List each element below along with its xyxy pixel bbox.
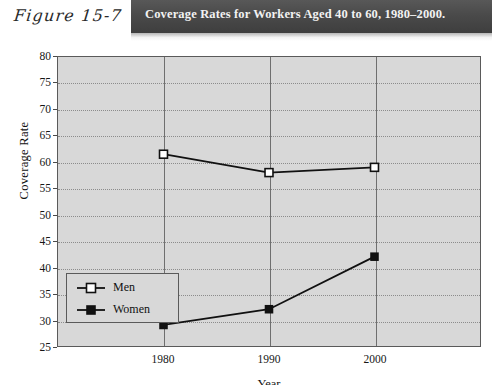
y-tick-label: 30	[5, 315, 51, 327]
y-tick-label: 50	[5, 209, 51, 221]
y-tick-label: 55	[5, 182, 51, 194]
legend-marker-women-icon	[75, 299, 107, 321]
y-tick-label: 40	[5, 262, 51, 274]
y-tick-label: 65	[5, 129, 51, 141]
chart-area: Coverage Rate 253035404550556065707580 1…	[0, 41, 492, 385]
chart-title: Coverage Rates for Workers Aged 40 to 60…	[145, 7, 445, 22]
figure-header: Figure 15-7 Coverage Rates for Workers A…	[0, 0, 492, 40]
y-tick-label: 25	[5, 341, 51, 353]
y-tick-label: 35	[5, 288, 51, 300]
y-tick-label: 45	[5, 235, 51, 247]
plot-frame: MenWomen	[57, 56, 481, 347]
header-shadow	[131, 33, 492, 41]
legend-label: Men	[113, 280, 135, 295]
chart-legend: MenWomen	[66, 273, 179, 323]
legend-marker-men-icon	[75, 277, 107, 299]
y-tick-label: 60	[5, 156, 51, 168]
legend-item-women: Women	[67, 299, 178, 321]
legend-item-men: Men	[67, 277, 178, 299]
y-tick-label: 70	[5, 103, 51, 115]
legend-label: Women	[113, 302, 150, 317]
y-tick-mark	[53, 347, 57, 348]
title-bar: Coverage Rates for Workers Aged 40 to 60…	[131, 0, 492, 33]
data-point-women	[371, 253, 378, 260]
data-point-men	[371, 163, 379, 171]
y-tick-label: 75	[5, 76, 51, 88]
data-point-men	[265, 169, 273, 177]
series-line-women	[164, 257, 375, 325]
x-tick-label: 1980	[133, 353, 193, 365]
y-tick-label: 80	[5, 50, 51, 62]
data-point-women	[266, 306, 273, 313]
data-point-men	[160, 150, 168, 158]
x-tick-label: 2000	[345, 353, 405, 365]
x-tick-label: 1990	[239, 353, 299, 365]
figure-number-label: Figure 15-7	[13, 6, 123, 25]
x-axis-title: Year	[57, 377, 481, 385]
